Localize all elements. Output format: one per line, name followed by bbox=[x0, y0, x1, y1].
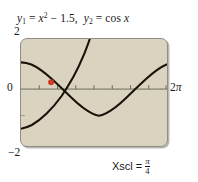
cosine-argument: x bbox=[124, 12, 129, 24]
equation-title: y1 = x2 − 1.5, y2 = cos x bbox=[17, 9, 129, 29]
pi-symbol: π bbox=[176, 81, 182, 93]
cosine-function-name: cos bbox=[105, 12, 121, 24]
y2-subscript: 2 bbox=[89, 17, 93, 26]
x-axis-max-label: 2π bbox=[170, 81, 182, 93]
exponent-2: 2 bbox=[44, 11, 48, 20]
xscl-equals: = bbox=[136, 160, 142, 172]
intersection-point[interactable] bbox=[48, 79, 54, 85]
graphing-calculator-screen bbox=[20, 38, 168, 147]
xscl-fraction: π 4 bbox=[145, 157, 150, 175]
equals-sign-2: = bbox=[96, 12, 103, 24]
xscl-denominator: 4 bbox=[145, 166, 149, 175]
y-axis-max-label: 2 bbox=[14, 25, 20, 37]
y-axis-min-label: −2 bbox=[8, 146, 20, 158]
xscl-numerator: π bbox=[145, 157, 150, 165]
xscl-note: Xscl = π 4 bbox=[112, 157, 150, 175]
equals-sign-1: = bbox=[29, 12, 36, 24]
minus-sign: − bbox=[51, 12, 58, 24]
y1-subscript: 1 bbox=[22, 17, 26, 26]
y-axis-zero-label: 0 bbox=[7, 81, 13, 93]
constant-1point5: 1.5 bbox=[60, 12, 75, 24]
xscl-label: Xscl bbox=[112, 160, 133, 172]
comma-separator: , bbox=[75, 12, 78, 24]
plot-canvas bbox=[21, 39, 167, 146]
